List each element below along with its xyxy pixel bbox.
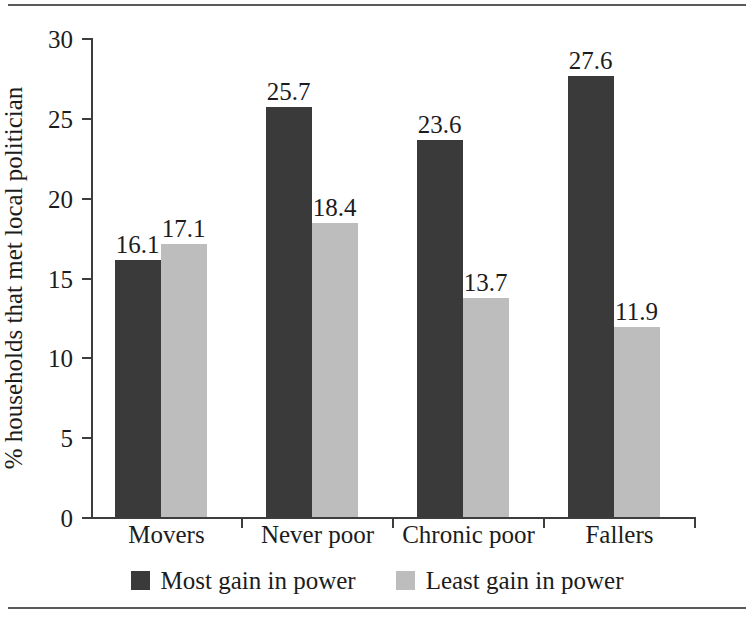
y-tick-20: 20 <box>82 198 92 200</box>
bar-value-label: 23.6 <box>418 112 462 137</box>
bar-never-poor-least-gain: 18.4 <box>312 223 358 517</box>
bar-value-label: 18.4 <box>313 195 357 220</box>
plot-area: 051015202530 16.117.125.718.423.613.727.… <box>91 38 695 517</box>
y-tick-25: 25 <box>82 118 92 120</box>
y-tick-15: 15 <box>82 278 92 280</box>
x-category-label-never-poor: Never poor <box>242 522 393 547</box>
y-tick-5: 5 <box>82 437 92 439</box>
y-tick-label-0: 0 <box>61 506 74 531</box>
legend-item-least-gain[interactable]: Least gain in power <box>396 568 624 593</box>
y-tick-label-20: 20 <box>48 186 73 211</box>
bar-chronic-poor-most-gain: 23.6 <box>417 140 463 517</box>
legend-item-most-gain[interactable]: Most gain in power <box>131 568 356 593</box>
y-tick-label-15: 15 <box>48 266 73 291</box>
bar-value-label: 16.1 <box>116 232 160 257</box>
y-tick-30: 30 <box>82 38 92 40</box>
bar-value-label: 27.6 <box>569 48 613 73</box>
chart-legend: Most gain in power Least gain in power <box>0 568 754 593</box>
x-category-label-fallers: Fallers <box>544 522 695 547</box>
x-category-label-movers: Movers <box>91 522 242 547</box>
bar-movers-most-gain: 16.1 <box>115 260 161 517</box>
bottom-divider-rule <box>8 607 746 609</box>
bar-never-poor-most-gain: 25.7 <box>266 107 312 517</box>
y-tick-10: 10 <box>82 357 92 359</box>
bar-value-label: 25.7 <box>267 79 311 104</box>
x-category-label-chronic-poor: Chronic poor <box>393 522 544 547</box>
bar-value-label: 17.1 <box>162 216 206 241</box>
y-tick-label-5: 5 <box>61 426 74 451</box>
bar-value-label: 11.9 <box>615 299 658 324</box>
y-tick-label-10: 10 <box>48 346 73 371</box>
y-axis-title: % households that met local politician <box>1 87 26 470</box>
y-tick-label-25: 25 <box>48 106 73 131</box>
bar-chronic-poor-least-gain: 13.7 <box>463 298 509 517</box>
legend-swatch-icon-most-gain <box>131 571 150 590</box>
bar-value-label: 13.7 <box>464 270 508 295</box>
y-tick-label-30: 30 <box>48 27 73 52</box>
bar-fallers-least-gain: 11.9 <box>614 327 660 517</box>
figure-panel: % households that met local politician 0… <box>0 0 754 626</box>
legend-label-most-gain: Most gain in power <box>161 568 356 593</box>
bar-movers-least-gain: 17.1 <box>161 244 207 517</box>
legend-label-least-gain: Least gain in power <box>426 568 624 593</box>
y-tick-0: 0 <box>82 517 92 519</box>
bar-fallers-most-gain: 27.6 <box>568 76 614 517</box>
top-divider-rule <box>8 4 746 6</box>
legend-swatch-icon-least-gain <box>396 571 415 590</box>
